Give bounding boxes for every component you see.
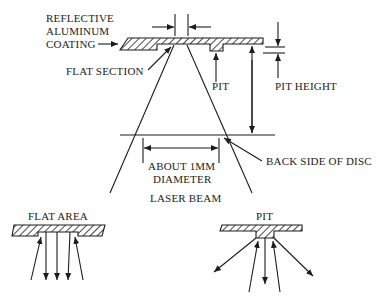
flat-area-label: FLAT AREA bbox=[28, 210, 88, 223]
flat-section-label: FLAT SECTION bbox=[66, 65, 144, 78]
laser-beam-label: LASER BEAM bbox=[150, 192, 221, 205]
pit-height-label: PIT HEIGHT bbox=[275, 80, 337, 93]
diameter-label-line2: DIAMETER bbox=[153, 173, 211, 186]
cd-laser-reflection-diagram: REFLECTIVE ALUMINUM COATING FLAT SECTION… bbox=[0, 0, 379, 305]
diameter-label-line1: ABOUT 1MM bbox=[148, 160, 215, 173]
coating-label-line3: COATING bbox=[46, 38, 96, 51]
back-side-label: BACK SIDE OF DISC bbox=[266, 155, 372, 168]
pit-label: PIT bbox=[212, 80, 229, 93]
coating-label-line2: ALUMINUM bbox=[46, 25, 109, 38]
coating-label-line1: REFLECTIVE bbox=[46, 12, 114, 25]
aluminum-coating-layer bbox=[120, 38, 263, 51]
pit-disc bbox=[220, 225, 302, 238]
flat-area-disc bbox=[12, 225, 105, 236]
pit-detail-label: PIT bbox=[256, 210, 273, 223]
